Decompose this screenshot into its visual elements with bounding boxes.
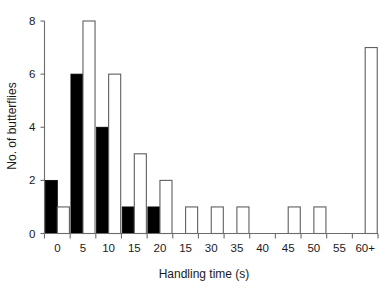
x-tick-label: 5 [80,242,86,254]
x-tick-label: 55 [333,242,346,254]
y-tick-label: 2 [29,174,35,186]
x-tick-label: 60+ [355,242,375,254]
y-tick-label: 0 [29,228,35,240]
x-tick-label: 40 [256,242,269,254]
bar-open [83,21,95,234]
bar-open [57,207,69,234]
chart-figure: 02468 051015201530354045505560+ Handling… [0,0,387,289]
y-tick-label: 4 [29,121,36,133]
y-axis-title: No. of butterflies [5,82,19,169]
bar-filled [97,127,109,233]
histogram-plot: 02468 051015201530354045505560+ Handling… [0,0,387,289]
y-tick-label: 8 [29,15,35,27]
x-tick-label: 15 [128,242,141,254]
x-tick-label: 35 [231,242,244,254]
x-tick-label: 10 [102,242,115,254]
bar-open [160,180,172,233]
bar-filled [148,207,160,234]
bars-layer [45,21,377,234]
x-tick-label: 20 [154,242,167,254]
bar-open [186,207,198,234]
bar-open [134,154,146,234]
x-tick-label: 30 [205,242,218,254]
x-axis-title: Handling time (s) [159,267,250,281]
bar-filled [45,180,57,233]
bar-filled [122,207,134,234]
y-ticks-layer: 02468 [29,15,44,240]
x-tick-label: 15 [179,242,192,254]
x-tick-label: 50 [307,242,320,254]
x-tick-label: 45 [282,242,295,254]
x-ticks-layer: 051015201530354045505560+ [45,234,379,254]
x-tick-label: 0 [54,242,60,254]
bar-open [288,207,300,234]
y-tick-label: 6 [29,68,35,80]
bar-open [211,207,223,234]
bar-open [314,207,326,234]
bar-open [237,207,249,234]
bar-filled [71,74,83,233]
bar-open [109,74,121,233]
bar-open [365,48,377,234]
